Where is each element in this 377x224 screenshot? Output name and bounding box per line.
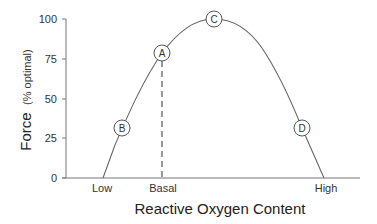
marker-c: C xyxy=(206,11,222,27)
y-tick-100: 100 xyxy=(39,13,57,25)
force-curve xyxy=(103,19,324,178)
y-title-main: Force xyxy=(17,112,34,150)
marker-d: D xyxy=(294,120,310,136)
x-axis-title: Reactive Oxygen Content xyxy=(135,200,307,217)
marker-b: B xyxy=(114,120,130,136)
x-label-basal: Basal xyxy=(149,182,177,194)
y-tick-25: 25 xyxy=(45,132,57,144)
x-label-high: High xyxy=(315,182,338,194)
marker-b-label: B xyxy=(119,123,126,134)
y-axis-title: Force (% optimal) xyxy=(17,49,34,150)
chart: 100 75 50 25 0 Force (% optimal) A B C D… xyxy=(0,0,377,224)
marker-a: A xyxy=(154,45,170,61)
y-ticks xyxy=(62,19,66,178)
y-title-sub: (% optimal) xyxy=(21,49,33,105)
y-tick-75: 75 xyxy=(45,53,57,65)
x-label-low: Low xyxy=(92,182,112,194)
svg-text:Force (% optimal): Force (% optimal) xyxy=(17,49,34,150)
y-tick-0: 0 xyxy=(51,172,57,184)
y-tick-50: 50 xyxy=(45,93,57,105)
marker-d-label: D xyxy=(298,123,305,134)
marker-a-label: A xyxy=(159,48,166,59)
marker-c-label: C xyxy=(210,14,217,25)
